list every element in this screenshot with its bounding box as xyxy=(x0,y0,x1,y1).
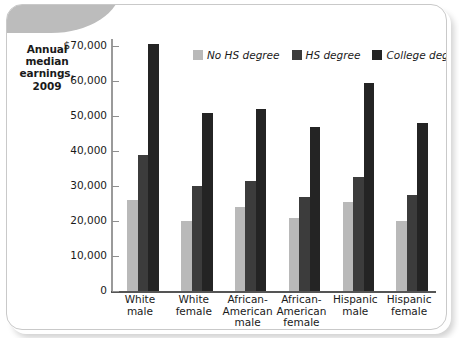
bar-group xyxy=(396,39,428,291)
x-axis-category-label-line: African- xyxy=(271,294,333,306)
x-axis-category-label-line: White xyxy=(109,294,171,306)
y-axis-tick-mark xyxy=(112,151,119,152)
bar-group xyxy=(181,39,213,291)
y-axis-tick-mark xyxy=(112,221,119,222)
bar xyxy=(407,195,418,291)
bar xyxy=(192,186,203,291)
y-axis-tick-label: 20,000 xyxy=(45,214,107,226)
y-axis-tick-label: 60,000 xyxy=(45,74,107,86)
plot-bars xyxy=(113,39,436,291)
bar xyxy=(289,218,300,292)
bar-group xyxy=(127,39,159,291)
y-axis-tick-mark xyxy=(112,291,119,292)
y-axis-tick-mark xyxy=(112,116,119,117)
x-axis-category-label-line: female xyxy=(163,306,225,318)
bar xyxy=(245,181,256,291)
bar-group xyxy=(235,39,267,291)
y-axis-tick-mark xyxy=(112,256,119,257)
bar xyxy=(138,155,149,292)
x-axis-category-labels: WhitemaleWhitefemaleAfrican-Americanmale… xyxy=(113,294,436,330)
x-axis-category-label-line: male xyxy=(217,317,279,329)
x-axis-category-label-line: Hispanic xyxy=(378,294,440,306)
bar-group xyxy=(289,39,321,291)
y-axis-tick-label: $70,000 xyxy=(45,39,107,51)
bar xyxy=(343,202,354,291)
bar-group xyxy=(343,39,375,291)
bar xyxy=(181,221,192,291)
x-axis-category-label-line: female xyxy=(271,317,333,329)
y-axis-tick-label: 0 xyxy=(45,284,107,296)
bar xyxy=(256,109,267,291)
x-axis-category-label: Whitemale xyxy=(109,294,171,317)
bar xyxy=(127,200,138,291)
y-axis-tick-labels: $70,00060,00050,00040,00030,00020,00010,… xyxy=(43,5,107,330)
x-axis-category-label-line: male xyxy=(324,306,386,318)
y-axis-tick-label: 10,000 xyxy=(45,249,107,261)
x-axis-category-label: Hispanicfemale xyxy=(378,294,440,317)
y-axis-tick-label: 50,000 xyxy=(45,109,107,121)
y-axis-tick-mark xyxy=(112,81,119,82)
bar xyxy=(148,44,159,291)
bar xyxy=(235,207,246,291)
y-axis-tick-label: 30,000 xyxy=(45,179,107,191)
bar xyxy=(417,123,428,291)
bar xyxy=(396,221,407,291)
x-axis-category-label-line: African- xyxy=(217,294,279,306)
bar xyxy=(202,113,213,292)
bar-chart: Annual median earnings, 2009 No HS degre… xyxy=(7,5,447,330)
y-axis-tick-label: 40,000 xyxy=(45,144,107,156)
bar xyxy=(364,83,375,291)
figure-card: Annual median earnings, 2009 No HS degre… xyxy=(6,4,447,330)
x-axis-category-label-line: male xyxy=(109,306,171,318)
x-axis-category-label-line: female xyxy=(378,306,440,318)
x-axis-category-label: African-Americanfemale xyxy=(271,294,333,329)
x-axis-category-label: African-Americanmale xyxy=(217,294,279,329)
x-axis-category-label-line: Hispanic xyxy=(324,294,386,306)
x-axis-category-label: Hispanicmale xyxy=(324,294,386,317)
y-axis-tick-mark xyxy=(112,186,119,187)
y-axis-tick-mark xyxy=(112,46,119,47)
bar xyxy=(299,197,310,292)
bar xyxy=(310,127,321,292)
x-axis-category-label: Whitefemale xyxy=(163,294,225,317)
bar xyxy=(353,177,364,291)
x-axis-category-label-line: White xyxy=(163,294,225,306)
